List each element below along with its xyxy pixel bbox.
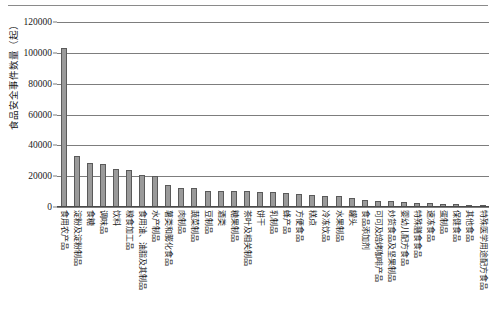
x-axis-category-label: 薯类和膨化食品 [164,210,172,266]
x-axis-category-label: 水果制品 [335,210,343,242]
x-axis-category-label: 饮料 [112,210,120,226]
y-axis-tick-label: 80000 [28,79,52,89]
x-axis-category-label: 方便食品 [295,210,303,242]
cat-slot: 食品添加剂 [358,210,371,333]
x-axis-category-label: 粮食加工品 [125,210,133,250]
bar-series [57,22,489,206]
x-axis-category-label: 豆制品 [204,210,212,234]
bar[interactable] [205,191,211,206]
bar-slot [136,22,149,206]
cat-slot: 饮料 [109,210,122,333]
cat-slot: 食用油、油脂及其制品 [136,210,149,333]
bar[interactable] [178,188,184,206]
y-axis-tick-label: 40000 [28,140,52,150]
cat-slot: 可可及焙烤咖啡产品 [371,210,384,333]
bar[interactable] [139,175,145,206]
y-axis-title: 食品安全事件数量（起） [6,0,20,160]
x-axis-category-label: 保健食品 [452,210,460,242]
bar-slot [175,22,188,206]
cat-slot: 饼干 [253,210,266,333]
x-axis-category-label: 特殊医学用途配方食品 [479,210,487,290]
x-axis-category-label: 蜂产品 [282,210,290,234]
y-axis-tick-label: 60000 [28,110,52,120]
cat-slot: 其他食品 [463,210,476,333]
x-axis-category-label: 肉制品 [177,210,185,234]
bar[interactable] [309,195,315,206]
cat-slot: 速冻食品 [424,210,437,333]
bar[interactable] [61,48,67,206]
x-axis-category-label: 饼干 [256,210,264,226]
bar[interactable] [126,170,132,206]
y-axis-tick-label: 120000 [24,17,53,27]
bar[interactable] [113,169,119,206]
bar-slot [371,22,384,206]
bar-slot [253,22,266,206]
x-axis-category-label: 水产制品 [151,210,159,242]
bar-slot [149,22,162,206]
gridline [57,207,489,208]
bar-slot [411,22,424,206]
bar-slot [162,22,175,206]
cat-slot: 茶叶及相关制品 [240,210,253,333]
y-axis-tick-label: 100000 [24,48,53,58]
cat-slot: 方便食品 [293,210,306,333]
bar-slot [96,22,109,206]
x-axis-category-label: 其他食品 [465,210,473,242]
bar[interactable] [336,196,342,206]
bar-slot [122,22,135,206]
cat-slot: 罐头 [345,210,358,333]
bar-slot [214,22,227,206]
x-axis-category-label: 炒货食品及坚果制品 [387,210,395,282]
bar-slot [424,22,437,206]
x-axis-category-label: 食品添加剂 [361,210,369,250]
bar-slot [358,22,371,206]
bar[interactable] [349,198,355,206]
bar[interactable] [218,191,224,206]
cat-slot: 特殊膳食食品 [411,210,424,333]
cat-slot: 薯类和膨化食品 [162,210,175,333]
bar-slot [109,22,122,206]
bar[interactable] [231,191,237,206]
x-axis-category-label: 速冻食品 [426,210,434,242]
bar-slot [201,22,214,206]
x-axis-category-label: 调味品 [99,210,107,234]
bar-slot [397,22,410,206]
x-axis-category-label: 糖果制品 [230,210,238,242]
y-axis-tick-label: 20000 [28,171,52,181]
bar-slot [267,22,280,206]
cat-slot: 淀粉及淀粉制品 [70,210,83,333]
cat-slot: 婴幼儿配方食品 [397,210,410,333]
cat-slot: 酒类 [214,210,227,333]
bar-slot [83,22,96,206]
bar[interactable] [296,194,302,206]
plot-area: 020000400006000080000100000120000 [57,22,489,207]
cat-slot: 水果制品 [332,210,345,333]
cat-slot: 糕点 [306,210,319,333]
bar[interactable] [100,164,106,206]
bar[interactable] [283,193,289,206]
bar[interactable] [87,163,93,206]
cat-slot: 调味品 [96,210,109,333]
bar-slot [319,22,332,206]
bar-slot [345,22,358,206]
x-axis-category-label: 酒类 [217,210,225,226]
x-axis-category-label: 茶叶及相关制品 [243,210,251,266]
cat-slot: 保健食品 [450,210,463,333]
bar[interactable] [191,188,197,206]
bar[interactable] [165,185,171,206]
x-axis-category-label: 婴幼儿配方食品 [400,210,408,266]
cat-slot: 食用农产品 [57,210,70,333]
bar-slot [476,22,489,206]
bar[interactable] [244,191,250,206]
cat-slot: 特殊医学用途配方食品 [476,210,489,333]
cat-slot: 粮食加工品 [122,210,135,333]
bar-slot [188,22,201,206]
bar[interactable] [152,176,158,206]
bar[interactable] [74,156,80,206]
bar[interactable] [270,192,276,206]
bar[interactable] [257,192,263,206]
cat-slot: 乳制品 [267,210,280,333]
bar[interactable] [322,196,328,206]
bar-slot [437,22,450,206]
cat-slot: 蛋制品 [437,210,450,333]
